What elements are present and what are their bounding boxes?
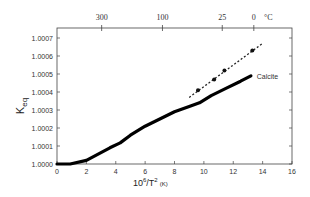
x-axis-title: 106/T2(K) — [133, 177, 168, 188]
y-tick-label: 1.0005 — [32, 71, 54, 78]
x-tick-label: 14 — [259, 168, 267, 175]
series-layer: Calcite — [57, 43, 278, 164]
plot-border — [57, 28, 292, 164]
x-tick-label: 6 — [143, 168, 147, 175]
data-point — [250, 49, 254, 53]
x-tick-label: 8 — [173, 168, 177, 175]
calcite-curve — [57, 76, 251, 164]
y-tick-label: 1.0000 — [32, 161, 54, 168]
y-tick-label: 1.0004 — [32, 89, 54, 96]
top-axis-unit: °C — [264, 13, 273, 22]
y-tick-label: 1.0007 — [32, 35, 54, 42]
data-point — [222, 68, 226, 72]
y-axis: 1.00001.00011.00021.00031.00041.00051.00… — [32, 35, 292, 168]
y-tick-label: 1.0002 — [32, 125, 54, 132]
x-axis: 0246810121416 — [55, 161, 296, 175]
top-tick-label: 100 — [156, 13, 168, 22]
x-tick-label: 16 — [288, 168, 296, 175]
y-axis-title: Keq — [14, 98, 29, 114]
x-tick-label: 10 — [200, 168, 208, 175]
y-tick-label: 1.0001 — [32, 143, 54, 150]
x-tick-label: 0 — [55, 168, 59, 175]
data-point — [196, 88, 200, 92]
x-tick-label: 12 — [229, 168, 237, 175]
data-point — [212, 77, 216, 81]
y-tick-label: 1.0003 — [32, 107, 54, 114]
top-tick-label: 25 — [218, 13, 226, 22]
chart: 1.00001.00011.00021.00031.00041.00051.00… — [0, 0, 310, 197]
calcite-label: Calcite — [257, 73, 279, 80]
top-tick-label: 0 — [252, 13, 256, 22]
y-tick-label: 1.0006 — [32, 53, 54, 60]
plot-frame — [57, 28, 292, 164]
x-tick-label: 2 — [84, 168, 88, 175]
top-tick-label: 300 — [96, 13, 108, 22]
x-tick-label: 4 — [114, 168, 118, 175]
